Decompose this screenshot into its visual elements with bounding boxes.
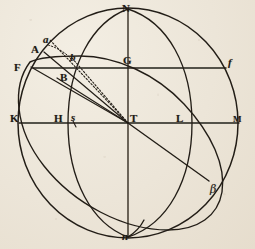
- label-s: s: [71, 112, 75, 123]
- label-beta: β: [210, 184, 216, 195]
- label-L: L: [176, 113, 183, 124]
- label-T: T: [130, 113, 137, 124]
- label-G: G: [123, 55, 132, 66]
- radius-T-F: [31, 67, 128, 123]
- label-B: B: [60, 72, 67, 83]
- radius-T-beta: [128, 123, 209, 181]
- label-A: A: [31, 44, 39, 55]
- label-M: M: [233, 115, 242, 124]
- label-F: F: [14, 62, 21, 73]
- label-H: H: [54, 113, 63, 124]
- label-a: a: [43, 34, 49, 45]
- sphere-diagram: [0, 0, 255, 249]
- label-N: N: [122, 3, 130, 14]
- label-f: f: [228, 57, 232, 68]
- figure-root: N a A b F G f B K H s T L M β n: [0, 0, 255, 249]
- label-K: K: [10, 113, 19, 124]
- label-n: n: [122, 231, 128, 242]
- label-b: b: [70, 52, 76, 63]
